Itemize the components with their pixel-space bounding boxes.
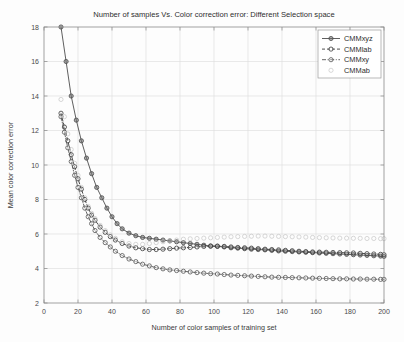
x-tick-label: 160 — [310, 308, 322, 315]
data-point — [236, 273, 240, 277]
data-point — [188, 237, 192, 241]
legend-label: CMMxyz — [344, 34, 373, 43]
data-point — [215, 244, 219, 248]
data-point — [69, 94, 73, 98]
data-point — [338, 236, 342, 240]
x-tick-label: 80 — [176, 308, 184, 315]
data-point — [270, 234, 274, 238]
data-point — [277, 275, 281, 279]
data-point — [181, 246, 185, 250]
legend-marker-swatch — [329, 68, 333, 72]
data-point — [317, 250, 321, 254]
data-point — [66, 132, 70, 136]
data-point — [243, 274, 247, 278]
data-point — [215, 272, 219, 276]
data-point — [351, 277, 355, 281]
data-point — [263, 234, 267, 238]
y-tick-label: 2 — [35, 300, 39, 307]
y-tick-label: 18 — [31, 24, 39, 31]
data-point — [358, 236, 362, 240]
data-point — [120, 253, 124, 257]
data-point — [311, 250, 315, 254]
data-point — [283, 234, 287, 238]
data-point — [105, 206, 109, 210]
legend-label: CMMab — [344, 66, 370, 75]
x-tick-label: 100 — [208, 308, 220, 315]
data-point — [209, 236, 213, 240]
data-point — [290, 249, 294, 253]
data-point — [73, 161, 77, 165]
data-point — [277, 234, 281, 238]
data-point — [147, 241, 151, 245]
data-point — [83, 196, 87, 200]
data-point — [108, 245, 112, 249]
data-point — [202, 271, 206, 275]
x-tick-label: 140 — [276, 308, 288, 315]
data-point — [84, 156, 88, 160]
data-point — [93, 216, 97, 220]
data-point — [249, 246, 253, 250]
data-point — [317, 276, 321, 280]
y-tick-label: 6 — [35, 231, 39, 238]
data-point — [304, 249, 308, 253]
data-point — [311, 276, 315, 280]
data-point — [222, 272, 226, 276]
data-point — [134, 260, 138, 264]
data-point — [98, 235, 102, 239]
data-point — [100, 196, 104, 200]
data-point — [181, 237, 185, 241]
data-point — [69, 147, 73, 151]
legend[interactable]: CMMxyzCMMlabCMMxyCMMab — [318, 30, 381, 78]
data-point — [222, 244, 226, 248]
data-point — [345, 251, 349, 255]
data-point — [62, 115, 66, 119]
data-point — [90, 211, 94, 215]
legend-label: CMMxy — [344, 55, 369, 64]
data-point — [358, 251, 362, 255]
data-point — [175, 238, 179, 242]
data-point — [311, 235, 315, 239]
y-tick-label: 14 — [31, 93, 39, 100]
x-axis-label: Number of color samples of training set — [151, 323, 276, 332]
data-point — [324, 236, 328, 240]
data-point — [324, 276, 328, 280]
data-point — [202, 244, 206, 248]
data-point — [331, 250, 335, 254]
data-point — [324, 250, 328, 254]
data-point — [110, 215, 114, 219]
data-point — [168, 239, 172, 243]
data-point — [365, 252, 369, 256]
data-point — [103, 241, 107, 245]
data-point — [297, 276, 301, 280]
data-point — [290, 276, 294, 280]
data-point — [108, 233, 112, 237]
data-point — [263, 247, 267, 251]
data-point — [256, 234, 260, 238]
y-axis-label: Mean color correction error — [6, 121, 15, 208]
y-tick-label: 12 — [31, 127, 39, 134]
data-point — [181, 269, 185, 273]
x-tick-label: 20 — [74, 308, 82, 315]
data-point — [215, 235, 219, 239]
data-point — [249, 274, 253, 278]
legend-label: CMMlab — [344, 45, 372, 54]
legend-marker-swatch — [329, 47, 333, 51]
data-point — [304, 276, 308, 280]
data-point — [168, 247, 172, 251]
data-point — [120, 240, 124, 244]
data-point — [64, 59, 68, 63]
data-point — [236, 234, 240, 238]
y-tick-label: 16 — [31, 58, 39, 65]
data-point — [147, 236, 151, 240]
x-tick-label: 40 — [108, 308, 116, 315]
x-tick-label: 0 — [42, 308, 46, 315]
data-point — [127, 241, 131, 245]
data-point — [120, 227, 124, 231]
y-tick-label: 8 — [35, 196, 39, 203]
data-point — [168, 268, 172, 272]
data-point — [188, 241, 192, 245]
data-point — [59, 97, 63, 101]
data-point — [195, 271, 199, 275]
data-point — [147, 264, 151, 268]
data-point — [161, 247, 165, 251]
